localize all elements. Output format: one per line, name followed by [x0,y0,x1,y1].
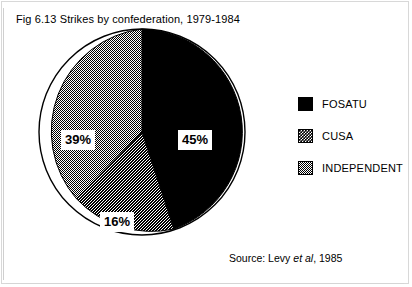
dense-dither-swatch [298,129,313,143]
legend-label-cusa: CUSA [322,130,353,142]
source-prefix: Source: Levy [229,252,290,264]
solid-black-swatch [298,97,313,111]
legend-item-fosatu: FOSATU [298,96,410,112]
page-title: Fig 6.13 Strikes by confederation, 1979-… [16,13,240,25]
source-suffix: , 1985 [313,252,342,264]
legend-label-independent: INDEPENDENT [322,162,403,174]
source-italic: et al [293,252,313,264]
figure-frame-left-edge [3,8,4,280]
figure-frame-bottom-edge [6,283,404,284]
legend-label-fosatu: FOSATU [322,98,367,110]
legend-item-independent: INDEPENDENT [298,160,410,176]
pie-value-label-fosatu: 45% [178,130,212,150]
pie-value-label-cusa: 16% [100,212,134,232]
light-checker-swatch [298,161,313,175]
pie-value-label-independent: 39% [61,130,95,150]
source-note: Source: Levyet al, 1985 [229,252,342,264]
legend: FOSATU CUSA INDEPENDENT [298,96,410,192]
legend-item-cusa: CUSA [298,128,410,144]
